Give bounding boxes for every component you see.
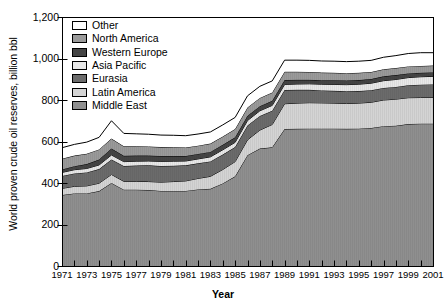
legend-label: North America — [92, 33, 159, 44]
legend-item: Other — [72, 19, 168, 32]
legend-swatch — [72, 101, 87, 110]
legend-swatch — [72, 61, 87, 70]
chart-legend: OtherNorth AmericaWestern EuropeAsia Pac… — [72, 19, 168, 112]
legend-item: Middle East — [72, 99, 168, 112]
legend-label: Latin America — [92, 87, 156, 98]
x-axis-tick-labels: 1971197319751977197919811983198519871989… — [0, 270, 446, 284]
legend-label: Other — [92, 20, 118, 31]
legend-item: Asia Pacific — [72, 59, 168, 72]
legend-label: Eurasia — [92, 73, 128, 84]
chart-figure: World proven crude oil reserves, billion… — [0, 0, 446, 307]
legend-item: North America — [72, 32, 168, 45]
legend-label: Asia Pacific — [92, 60, 146, 71]
legend-item: Latin America — [72, 85, 168, 98]
plot-area — [0, 0, 446, 307]
legend-swatch — [72, 88, 87, 97]
legend-label: Western Europe — [92, 47, 168, 58]
legend-swatch — [72, 34, 87, 43]
legend-swatch — [72, 21, 87, 30]
x-tick-label: 2001 — [413, 270, 446, 280]
legend-label: Middle East — [92, 100, 147, 111]
legend-swatch — [72, 48, 87, 57]
x-axis-title: Year — [0, 288, 446, 300]
legend-swatch — [72, 74, 87, 83]
legend-item: Western Europe — [72, 46, 168, 59]
legend-item: Eurasia — [72, 72, 168, 85]
